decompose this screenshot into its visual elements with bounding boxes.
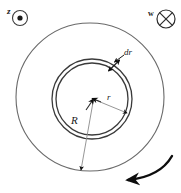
diagram-canvas xyxy=(0,0,181,193)
angular-velocity-into-page-icon xyxy=(157,10,175,28)
ring-inner-circle xyxy=(56,63,128,135)
ring-radius-label: r xyxy=(107,93,111,102)
z-axis-label: z xyxy=(7,7,11,16)
rotation-direction-arc-arrow xyxy=(128,156,172,180)
physics-diagram-figure: z w dr r R xyxy=(0,0,181,193)
ring-outer-circle xyxy=(52,59,132,139)
outer-disk-circle xyxy=(16,23,164,171)
z-axis-out-of-page-icon xyxy=(13,11,28,26)
ring-thickness-label: dr xyxy=(124,48,132,57)
disk-radius-label: R xyxy=(71,115,78,126)
angular-velocity-label: w xyxy=(148,10,154,18)
